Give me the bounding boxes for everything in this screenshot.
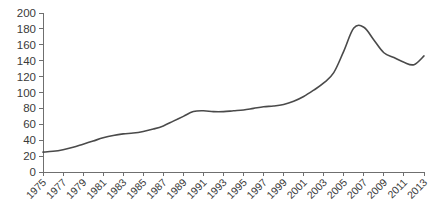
y-axis-tick-labels: 020406080100120140160180200 — [17, 7, 36, 178]
axes-group — [43, 13, 424, 172]
plot-series-group — [43, 25, 424, 152]
y-axis-tick-label: 180 — [17, 23, 36, 35]
x-axis-tick-label: 2009 — [364, 176, 389, 201]
chart-canvas: 020406080100120140160180200 197519771979… — [0, 0, 429, 212]
y-axis-tick-label: 160 — [17, 39, 36, 51]
line-chart-figure: 020406080100120140160180200 197519771979… — [0, 0, 429, 212]
y-axis-tick-label: 20 — [23, 150, 36, 162]
x-axis-tick-label: 1991 — [184, 176, 209, 201]
x-axis-tick-label: 1977 — [43, 176, 68, 201]
y-axis-ticks — [39, 13, 43, 172]
x-axis-ticks — [43, 172, 424, 176]
data-line-series-1 — [43, 25, 424, 152]
x-axis-tick-label: 1993 — [204, 176, 229, 201]
x-axis-tick-label: 1987 — [144, 176, 169, 201]
y-axis-tick-label: 140 — [17, 55, 36, 67]
x-axis-tick-label: 1989 — [164, 176, 189, 201]
x-axis-tick-label: 2001 — [284, 176, 309, 201]
x-axis-tick-labels: 1975197719791981198319851987198919911993… — [23, 176, 429, 201]
x-axis-tick-label: 1975 — [23, 176, 48, 201]
x-axis-tick-label: 2003 — [304, 176, 329, 201]
x-axis-tick-label: 2007 — [344, 176, 369, 201]
x-axis-tick-label: 1983 — [104, 176, 129, 201]
y-axis-tick-label: 0 — [30, 166, 36, 178]
y-axis-tick-label: 200 — [17, 7, 36, 19]
x-axis-tick-label: 2005 — [324, 176, 349, 201]
x-axis-tick-label: 1981 — [84, 176, 109, 201]
y-axis-tick-label: 40 — [23, 134, 36, 146]
y-axis-tick-label: 100 — [17, 87, 36, 99]
x-axis-tick-label: 1985 — [124, 176, 149, 201]
y-axis-tick-label: 80 — [23, 102, 36, 114]
y-axis-tick-label: 60 — [23, 118, 36, 130]
x-axis-tick-label: 1997 — [244, 176, 269, 201]
y-axis-tick-label: 120 — [17, 71, 36, 83]
x-axis-tick-label: 2011 — [385, 176, 410, 201]
x-axis-tick-label: 2013 — [404, 176, 429, 201]
x-axis-tick-label: 1999 — [264, 176, 289, 201]
x-axis-tick-label: 1995 — [224, 176, 249, 201]
x-axis-tick-label: 1979 — [64, 176, 89, 201]
